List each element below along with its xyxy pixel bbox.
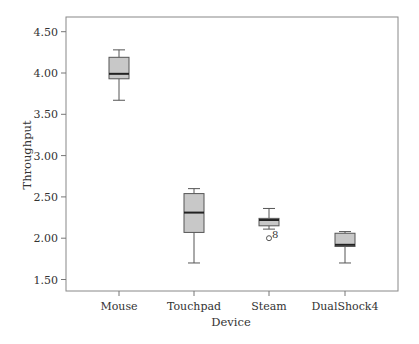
x-category-label: DualShock4 bbox=[311, 300, 378, 313]
boxplot-chart: 1.502.002.503.003.504.004.50 MouseTouchp… bbox=[0, 0, 419, 344]
iqr-box bbox=[109, 57, 129, 78]
y-tick-label: 2.50 bbox=[34, 191, 59, 204]
y-tick-label: 4.00 bbox=[34, 67, 59, 80]
outlier-label: 8 bbox=[272, 229, 278, 240]
y-tick-label: 3.00 bbox=[34, 150, 59, 163]
x-category-label: Mouse bbox=[100, 300, 137, 313]
y-tick-label: 2.00 bbox=[34, 232, 59, 245]
y-tick-label: 4.50 bbox=[34, 26, 59, 39]
x-category-label: Touchpad bbox=[167, 300, 221, 313]
x-axis-title: Device bbox=[211, 315, 251, 329]
outlier-point bbox=[267, 236, 272, 241]
x-axis: MouseTouchpadSteamDualShock4 bbox=[100, 291, 378, 313]
y-tick-label: 1.50 bbox=[34, 274, 59, 287]
y-tick-label: 3.50 bbox=[34, 108, 59, 121]
y-axis: 1.502.002.503.003.504.004.50 bbox=[34, 26, 67, 287]
x-category-label: Steam bbox=[251, 300, 287, 313]
y-axis-title: Throughput bbox=[20, 120, 34, 189]
